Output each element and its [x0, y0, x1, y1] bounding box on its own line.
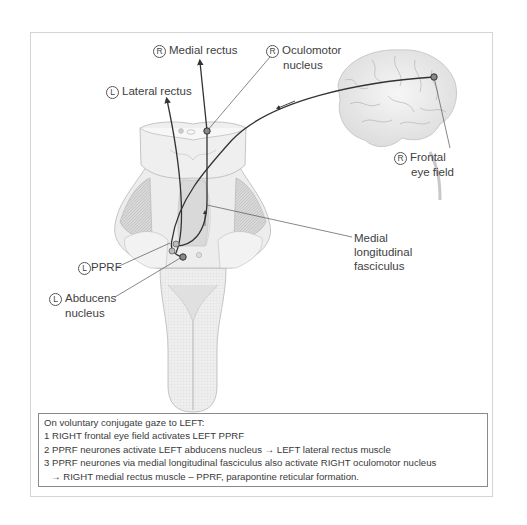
- caption-box: On voluntary conjugate gaze to LEFT: 1 R…: [38, 413, 488, 487]
- label-medial-rectus: RMedial rectus: [153, 43, 237, 58]
- caption-step-3: 3 PPRF neurones via medial longitudinal …: [44, 456, 482, 469]
- right-abducens-neuron: [196, 252, 201, 257]
- pprf-neuron: [173, 241, 179, 247]
- midbrain: [140, 122, 246, 179]
- side-badge-left: L: [49, 293, 62, 306]
- side-badge-right: R: [266, 45, 279, 58]
- pprf-neuron-2: [169, 248, 175, 254]
- label-frontal-eye-field: RFrontal eye field: [394, 150, 454, 179]
- caption-step-2: 2 PPRF neurones activate LEFT abducens n…: [44, 443, 482, 456]
- label-oculomotor-nucleus: ROculomotor nucleus: [266, 43, 341, 72]
- label-medial-longitudinal-fasciculus: Medial longitudinal fasciculus: [354, 231, 412, 273]
- side-badge-left: L: [106, 86, 119, 99]
- label-abducens-nucleus: LAbducens nucleus: [49, 291, 116, 320]
- caption-step-3-continuation: → RIGHT medial rectus muscle – PPRF, par…: [44, 470, 482, 483]
- medulla: [160, 268, 226, 412]
- side-badge-right: R: [153, 45, 166, 58]
- fef-neuron: [431, 74, 437, 80]
- side-badge-right: R: [394, 152, 407, 165]
- abducens-neuron: [180, 254, 186, 260]
- oculomotor-axon: [200, 62, 207, 131]
- label-pprf: LPPRF: [78, 260, 122, 275]
- label-lateral-rectus: LLateral rectus: [106, 84, 192, 99]
- caption-heading: On voluntary conjugate gaze to LEFT:: [44, 416, 482, 429]
- side-badge-left: L: [78, 262, 91, 275]
- oculomotor-neuron: [204, 128, 210, 134]
- caption-step-1: 1 RIGHT frontal eye field activates LEFT…: [44, 429, 482, 442]
